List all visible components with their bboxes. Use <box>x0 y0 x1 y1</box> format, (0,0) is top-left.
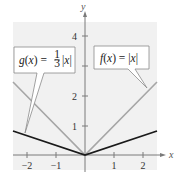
callout-g-abs: |x| <box>62 54 72 67</box>
x-axis-arrow-icon <box>160 153 166 157</box>
callout-g-frac-den: 3 <box>54 57 60 69</box>
x-tick-label: −2 <box>22 160 33 171</box>
x-axis-label: x <box>168 149 174 160</box>
callout-g-text: g(x) = <box>19 54 47 67</box>
x-tick-label: 1 <box>112 160 117 171</box>
x-tick-label: −1 <box>51 160 62 171</box>
y-tick-label: 4 <box>72 31 77 42</box>
absolute-value-chart: x −2 −1 1 2 y 1 2 4 g(x) = 1 3 |x <box>0 0 180 179</box>
y-tick-label: 1 <box>72 121 77 132</box>
x-tick-label: 2 <box>141 160 146 171</box>
callout-f-text: f(x) = |x| <box>100 52 138 65</box>
y-axis-label: y <box>80 1 86 12</box>
y-tick-label: 2 <box>72 91 77 102</box>
